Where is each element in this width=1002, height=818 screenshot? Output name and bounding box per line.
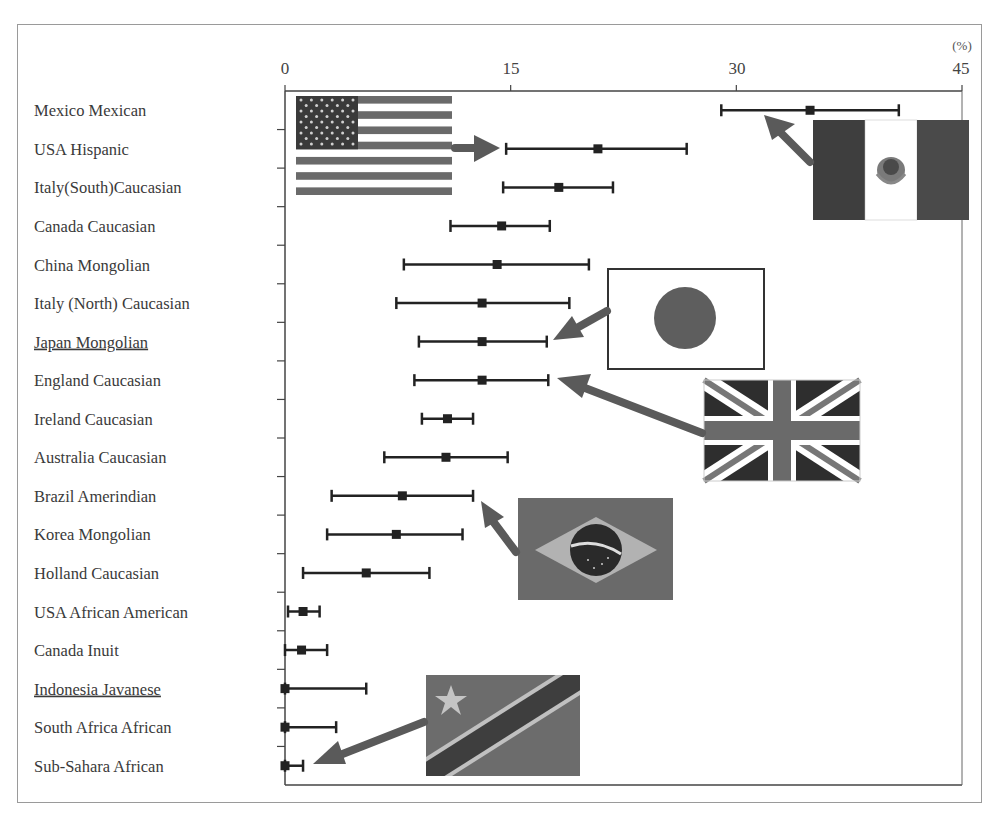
point-estimate-marker xyxy=(478,337,487,346)
arrow-usa-icon xyxy=(455,135,500,162)
x-tick-0: 0 xyxy=(281,59,290,78)
category-label: Australia Caucasian xyxy=(34,448,166,467)
arrow-japan-icon xyxy=(553,311,607,340)
arrow-mexico-icon xyxy=(764,115,810,162)
error-bar-row xyxy=(396,297,569,309)
error-bar-row xyxy=(506,143,687,155)
category-label: Canada Caucasian xyxy=(34,217,155,236)
error-bar-row xyxy=(450,220,549,232)
category-label: South Africa African xyxy=(34,718,171,737)
category-label: Italy (North) Caucasian xyxy=(34,294,190,313)
point-estimate-marker xyxy=(362,568,371,577)
point-estimate-marker xyxy=(392,530,401,539)
point-estimate-marker xyxy=(297,646,306,655)
point-estimate-marker xyxy=(554,183,563,192)
error-bar-row xyxy=(281,721,337,733)
point-estimate-marker xyxy=(478,376,487,385)
x-tick-30: 30 xyxy=(729,59,746,78)
category-label: Ireland Caucasian xyxy=(34,410,153,429)
point-estimate-marker xyxy=(478,299,487,308)
x-tick-45: 45 xyxy=(953,59,970,78)
error-bar-row xyxy=(414,374,548,386)
category-label: USA Hispanic xyxy=(34,140,129,159)
error-bar-row xyxy=(422,413,473,425)
point-estimate-marker xyxy=(806,106,815,115)
category-label: Mexico Mexican xyxy=(34,101,146,120)
point-estimate-marker xyxy=(281,684,290,693)
category-label: Italy(South)Caucasian xyxy=(34,178,182,197)
uk-flag-icon xyxy=(704,380,860,481)
error-bar-row xyxy=(404,259,589,271)
category-label: Brazil Amerindian xyxy=(34,487,156,506)
error-bar-row xyxy=(419,336,547,348)
category-label: Indonesia Javanese xyxy=(34,680,161,699)
error-bar-row xyxy=(288,606,320,618)
error-bar-row xyxy=(721,104,899,116)
error-bar-row xyxy=(281,760,304,772)
category-label: Sub-Sahara African xyxy=(34,757,164,776)
point-estimate-marker xyxy=(281,723,290,732)
error-bar-row xyxy=(384,451,507,463)
point-estimate-marker xyxy=(493,260,502,269)
error-bar-row xyxy=(327,528,462,540)
arrow-uk-icon xyxy=(557,374,702,433)
category-label: England Caucasian xyxy=(34,371,161,390)
category-label: China Mongolian xyxy=(34,256,150,275)
error-bar-row xyxy=(332,490,473,502)
flag-annotations xyxy=(296,96,969,781)
category-label: Canada Inuit xyxy=(34,641,119,660)
error-bar-row xyxy=(503,181,613,193)
point-estimate-marker xyxy=(441,453,450,462)
category-label: Korea Mongolian xyxy=(34,525,151,544)
forest-plot: Mexico MexicanUSA HispanicItaly(South)Ca… xyxy=(0,0,1002,818)
brazil-flag-icon xyxy=(518,498,673,600)
category-label: USA African American xyxy=(34,603,188,622)
point-estimate-marker xyxy=(593,144,602,153)
error-bar-row xyxy=(281,683,367,695)
usa-flag-icon xyxy=(296,96,452,195)
category-label: Japan Mongolian xyxy=(34,333,148,352)
category-label: Holland Caucasian xyxy=(34,564,159,583)
error-bar-row xyxy=(285,644,327,656)
mexico-flag-icon xyxy=(813,120,969,220)
japan-flag-icon xyxy=(608,269,764,369)
point-estimate-marker xyxy=(497,221,506,230)
point-estimate-marker xyxy=(281,761,290,770)
category-labels: Mexico MexicanUSA HispanicItaly(South)Ca… xyxy=(34,101,190,775)
x-unit-label: (%) xyxy=(952,38,972,53)
error-bar-row xyxy=(303,567,429,579)
arrow-brazil-icon xyxy=(481,501,516,552)
x-tick-15: 15 xyxy=(503,59,520,78)
point-estimate-marker xyxy=(443,414,452,423)
point-estimate-marker xyxy=(299,607,308,616)
point-estimate-marker xyxy=(398,491,407,500)
x-tick-labels: 0 15 30 45 (%) xyxy=(281,38,972,78)
congo-flag-icon xyxy=(416,671,590,781)
